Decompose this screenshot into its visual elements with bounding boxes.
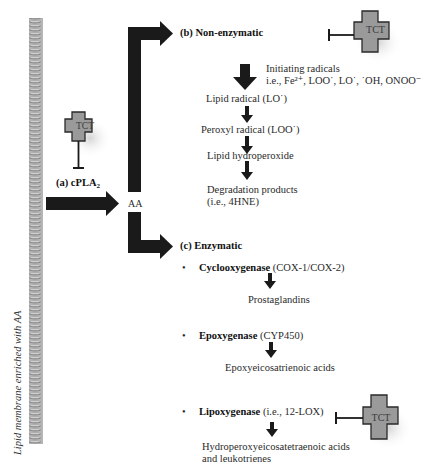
enzyme-cox: Cyclooxygenase (COX-1/COX-2) bbox=[199, 262, 345, 274]
cpla2-label-sub: 2 bbox=[97, 182, 101, 190]
lipid-hydroperoxide-label: Lipid hydroperoxide bbox=[207, 150, 294, 162]
lipid-membrane bbox=[29, 18, 43, 444]
down-arrow-cox-icon bbox=[264, 273, 276, 289]
enzyme-cyp-detail: (CYP450) bbox=[260, 330, 303, 341]
degradation-example-label: (i.e., 4HNE) bbox=[207, 196, 259, 208]
bullet-lox: • bbox=[182, 406, 186, 418]
enzyme-lox-detail: (i.e., 12-LOX) bbox=[263, 406, 324, 417]
aa-label: AA bbox=[128, 198, 142, 210]
tct-label-c: TCT bbox=[364, 412, 398, 424]
down-arrow-lipid-radical-icon bbox=[241, 106, 253, 123]
arrow-to-nonenzymatic-icon bbox=[128, 21, 173, 192]
enzyme-cox-detail: (COX-1/COX-2) bbox=[273, 262, 345, 273]
down-arrow-hydroperoxide-icon bbox=[241, 161, 253, 180]
peroxyl-radical-label: Peroxyl radical (LOO˙) bbox=[201, 124, 300, 136]
product-eets: Epoxyeicosatrienoic acids bbox=[225, 362, 335, 374]
down-arrow-cyp-icon bbox=[265, 342, 277, 358]
product-hetes-line2: and leukotrienes bbox=[202, 453, 271, 464]
initiating-radicals-label: Initiating radicals bbox=[266, 63, 340, 75]
diagram-graphics bbox=[0, 0, 434, 464]
degradation-products-label: Degradation products bbox=[207, 184, 298, 196]
lipid-radical-label: Lipid radical (LO˙) bbox=[206, 93, 287, 105]
down-arrow-lox-icon bbox=[266, 422, 278, 437]
membrane-label: Lipid membrane enriched with AA bbox=[12, 311, 23, 455]
tct-inhibitor-b-icon bbox=[329, 11, 402, 64]
enzyme-cyp: Epoxygenase (CYP450) bbox=[199, 330, 303, 342]
bullet-cyp: • bbox=[182, 330, 186, 342]
initiating-radicals-examples: i.e., Fe²⁺, LOO˙, LO˙, ˙OH, ONOO⁻ bbox=[266, 75, 421, 87]
product-hetes-line1: Hydroperoxyeicosatetraenoic acids bbox=[202, 441, 350, 453]
enzyme-cyp-name: Epoxygenase bbox=[199, 330, 257, 341]
cpla2-label-text: (a) cPLA bbox=[56, 177, 97, 188]
enzyme-lox: Lipoxygenase (i.e., 12-LOX) bbox=[199, 406, 324, 418]
arrow-to-enzymatic-icon bbox=[128, 212, 173, 259]
bullet-cox: • bbox=[182, 262, 186, 274]
enzyme-lox-name: Lipoxygenase bbox=[199, 406, 260, 417]
arrow-membrane-to-aa-icon bbox=[46, 191, 119, 216]
tct-label-a: TCT bbox=[70, 120, 100, 132]
cpla2-label: (a) cPLA2 bbox=[56, 177, 100, 192]
product-prostaglandins: Prostaglandins bbox=[248, 294, 310, 306]
tct-label-b: TCT bbox=[356, 24, 395, 36]
enzyme-cox-name: Cyclooxygenase bbox=[199, 262, 270, 273]
nonenzymatic-title: (b) Non-enzymatic bbox=[180, 27, 263, 39]
enzymatic-title: (c) Enzymatic bbox=[180, 240, 242, 252]
down-arrow-initiating-icon bbox=[233, 64, 257, 90]
